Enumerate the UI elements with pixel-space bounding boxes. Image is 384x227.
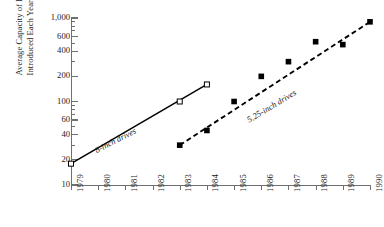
- data-point-marker: [204, 128, 210, 134]
- data-point-marker: [69, 161, 74, 166]
- data-point-marker: [313, 39, 319, 45]
- data-point-marker: [204, 82, 209, 87]
- data-point-marker: [177, 142, 183, 148]
- data-point-marker: [367, 19, 373, 25]
- data-point-marker: [286, 59, 292, 65]
- data-point-marker: [340, 42, 346, 48]
- data-point-marker: [258, 74, 264, 80]
- series-trendline: [71, 84, 207, 163]
- data-point-marker: [231, 99, 237, 105]
- data-point-marker: [177, 99, 182, 104]
